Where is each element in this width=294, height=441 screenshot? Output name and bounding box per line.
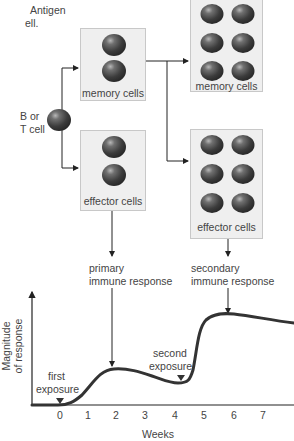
second-exposure-line-2: exposure [149, 360, 192, 373]
cell-icon [232, 164, 255, 184]
x-tick-3: 3 [142, 409, 148, 422]
y-axis-label-line-1: Magnitude [0, 306, 12, 386]
cell-icon [102, 164, 126, 186]
primary-memory-label: memory cells [81, 87, 145, 99]
cell-icon [232, 193, 255, 213]
second-exposure-line-1: second [153, 347, 187, 360]
secondary-response-line-1: secondary [191, 262, 239, 275]
secondary-response-line-2: immune response [191, 275, 274, 288]
secondary-memory-box: memory cells [190, 0, 263, 92]
cell-icon [201, 33, 224, 53]
primary-effector-label: effector cells [81, 195, 145, 207]
source-cell-label-2: T cell [20, 123, 45, 136]
primary-response-line-1: primary [89, 262, 124, 275]
x-tick-6: 6 [231, 409, 237, 422]
cell-icon [232, 4, 255, 24]
first-exposure-marker [56, 398, 64, 404]
x-tick-5: 5 [201, 409, 207, 422]
secondary-effector-label: effector cells [191, 221, 262, 233]
primary-memory-box: memory cells [80, 28, 146, 101]
x-tick-1: 1 [85, 409, 91, 422]
x-tick-4: 4 [172, 409, 178, 422]
cell-icon [201, 61, 224, 81]
x-tick-0: 0 [57, 409, 63, 422]
first-exposure-line-1: first [48, 370, 65, 383]
cell-icon [201, 4, 224, 24]
first-exposure-line-2: exposure [36, 383, 79, 396]
source-cell-label-1: B or [20, 110, 39, 123]
y-axis-label: Magnitude of response [0, 306, 24, 386]
cell-icon [232, 61, 255, 81]
cell-icon [102, 136, 126, 158]
cell-icon [232, 33, 255, 53]
cell-icon [201, 164, 224, 184]
cell-icon [232, 135, 255, 155]
cell-icon [102, 34, 126, 56]
x-tick-7: 7 [260, 409, 266, 422]
secondary-memory-label: memory cells [191, 81, 262, 92]
primary-response-line-2: immune response [89, 275, 172, 288]
cell-icon [201, 193, 224, 213]
second-exposure-marker [177, 375, 185, 381]
cell-icon [201, 135, 224, 155]
source-cell-icon [47, 109, 71, 131]
y-axis-label-line-2: of response [12, 306, 24, 386]
x-tick-2: 2 [113, 409, 119, 422]
cell-icon [102, 60, 126, 82]
primary-effector-box: effector cells [80, 130, 146, 211]
x-axis-label: Weeks [142, 428, 174, 441]
secondary-effector-box: effector cells [190, 129, 263, 239]
